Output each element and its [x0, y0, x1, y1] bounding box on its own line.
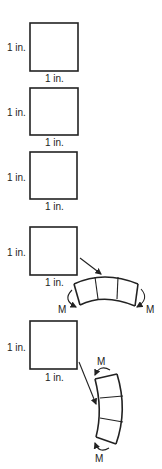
bottom-label: 1 in. [45, 277, 64, 288]
moment-label-left: M [58, 304, 66, 315]
bottom-label: 1 in. [45, 372, 64, 383]
side-label: 1 in. [7, 42, 26, 53]
bent-beam-horizontal: M M [58, 277, 154, 315]
bottom-label: 1 in. [45, 201, 64, 212]
moment-label-top: M [97, 356, 105, 367]
side-label: 1 in. [7, 342, 26, 353]
moment-arrow-right [137, 289, 145, 307]
square-3: 1 in. 1 in. [7, 152, 77, 212]
side-label: 1 in. [7, 107, 26, 118]
arrow-to-bent-beam-vertical [79, 362, 96, 404]
bottom-label: 1 in. [45, 137, 64, 148]
bent-beam-vertical: M M [95, 356, 123, 464]
side-label: 1 in. [7, 172, 26, 183]
moment-label-bottom: M [95, 453, 103, 464]
square-5: 1 in. 1 in. [7, 321, 77, 383]
square-4: 1 in. 1 in. [7, 227, 77, 288]
moment-label-right: M [146, 304, 154, 315]
square-1: 1 in. 1 in. [7, 23, 78, 84]
moment-arrow-left [68, 290, 76, 307]
square-2: 1 in. 1 in. [7, 88, 78, 148]
side-label: 1 in. [7, 247, 26, 258]
arrow-to-bent-beam [80, 258, 101, 274]
bottom-label: 1 in. [45, 73, 64, 84]
moment-arrow-top [95, 368, 110, 375]
diagram-canvas: 1 in. 1 in. 1 in. 1 in. 1 in. 1 in. 1 in… [0, 0, 162, 469]
moment-arrow-bottom [95, 443, 109, 450]
